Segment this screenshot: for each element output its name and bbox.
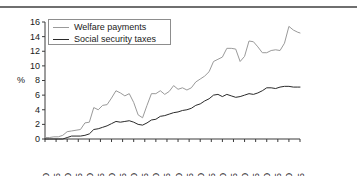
y-tick-label: 2 bbox=[35, 119, 40, 129]
x-tick-label: 1990 bbox=[240, 173, 250, 176]
legend-item-social-security-taxes: Social security taxes bbox=[53, 33, 166, 45]
legend-item-welfare-payments: Welfare payments bbox=[53, 21, 166, 33]
y-axis: 0246810121416% bbox=[17, 17, 45, 144]
x-tick-labels: 1900190519101915192019251930193519401945… bbox=[41, 173, 306, 176]
x-tick-label: 1980 bbox=[218, 173, 228, 176]
x-tick-label: 1940 bbox=[129, 173, 139, 176]
x-tick-label: 1910 bbox=[63, 173, 73, 176]
x-tick-label: 1920 bbox=[85, 173, 95, 176]
x-tick-label: 2015 bbox=[296, 173, 306, 176]
y-tick-label: 0 bbox=[35, 134, 40, 144]
x-tick-label: 1965 bbox=[185, 173, 195, 176]
x-tick-label: 1950 bbox=[151, 173, 161, 176]
series-line-social-security-taxes bbox=[45, 86, 300, 139]
x-tick-label: 1930 bbox=[107, 173, 117, 176]
legend-label-tax: Social security taxes bbox=[74, 35, 156, 44]
x-tick-label: 2010 bbox=[284, 173, 294, 176]
y-tick-label: 16 bbox=[30, 17, 40, 27]
x-tick-label: 1915 bbox=[74, 173, 84, 176]
legend-line-swatch-welfare bbox=[53, 27, 69, 28]
y-tick-label: 14 bbox=[30, 32, 40, 42]
x-tick-label: 2005 bbox=[273, 173, 283, 176]
x-tick-label: 1900 bbox=[41, 173, 51, 176]
legend-label-welfare: Welfare payments bbox=[74, 23, 146, 32]
y-axis-label: % bbox=[17, 75, 25, 85]
chart-legend: Welfare payments Social security taxes bbox=[48, 19, 171, 45]
x-tick-label: 1970 bbox=[196, 173, 206, 176]
x-tick-label: 1960 bbox=[174, 173, 184, 176]
legend-line-swatch-tax bbox=[53, 39, 69, 40]
x-tick-label: 1945 bbox=[140, 173, 150, 176]
y-tick-label: 4 bbox=[35, 105, 40, 115]
x-tick-label: 1985 bbox=[229, 173, 239, 176]
x-tick-label: 2000 bbox=[262, 173, 272, 176]
x-axis bbox=[45, 139, 300, 142]
y-tick-label: 6 bbox=[35, 90, 40, 100]
figure-container: at factor cost 1900–2015 0246810121416% … bbox=[0, 0, 357, 176]
x-tick-label: 1995 bbox=[251, 173, 261, 176]
y-tick-label: 8 bbox=[35, 75, 40, 85]
y-tick-label: 12 bbox=[30, 46, 40, 56]
figure-title: at factor cost 1900–2015 bbox=[0, 0, 357, 2]
x-tick-label: 1905 bbox=[52, 173, 62, 176]
x-tick-label: 1975 bbox=[207, 173, 217, 176]
y-tick-label: 10 bbox=[30, 61, 40, 71]
x-tick-label: 1955 bbox=[162, 173, 172, 176]
x-tick-label: 1935 bbox=[118, 173, 128, 176]
x-tick-label: 1925 bbox=[96, 173, 106, 176]
